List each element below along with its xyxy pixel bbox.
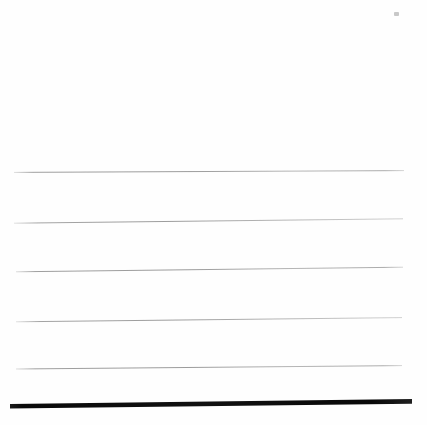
ruled-line-4 [16, 318, 402, 322]
ruled-line-5 [16, 366, 402, 369]
ruled-lines-layer [0, 0, 427, 425]
ruled-line-3 [16, 267, 403, 272]
ruled-line-1 [14, 171, 404, 173]
scan-speck-icon [394, 12, 399, 16]
ruled-line-2 [14, 219, 403, 223]
scanned-sheet-page [0, 0, 427, 425]
bottom-heavy-rule [10, 401, 412, 406]
